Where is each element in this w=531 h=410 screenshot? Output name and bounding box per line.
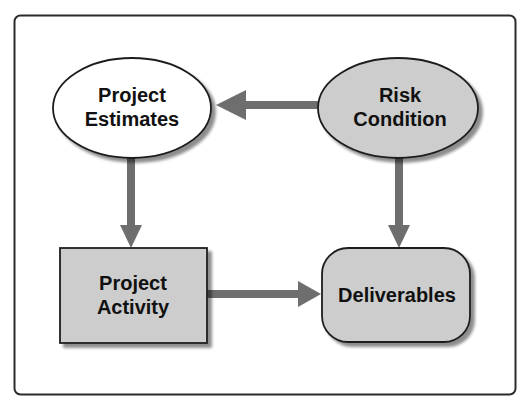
node-label: Risk: [379, 84, 422, 106]
node-label: Estimates: [85, 108, 180, 130]
node-risk-condition[interactable]: Risk Condition: [318, 58, 478, 158]
node-label: Project: [99, 272, 167, 294]
node-deliverables[interactable]: Deliverables: [322, 248, 470, 342]
diagram-canvas: Project Estimates Risk Condition Project…: [0, 0, 531, 410]
node-project-estimates[interactable]: Project Estimates: [53, 58, 211, 158]
node-label: Condition: [353, 108, 446, 130]
node-project-activity[interactable]: Project Activity: [60, 248, 207, 343]
node-label: Project: [98, 84, 166, 106]
node-label: Activity: [97, 296, 170, 318]
node-label: Deliverables: [338, 284, 456, 306]
